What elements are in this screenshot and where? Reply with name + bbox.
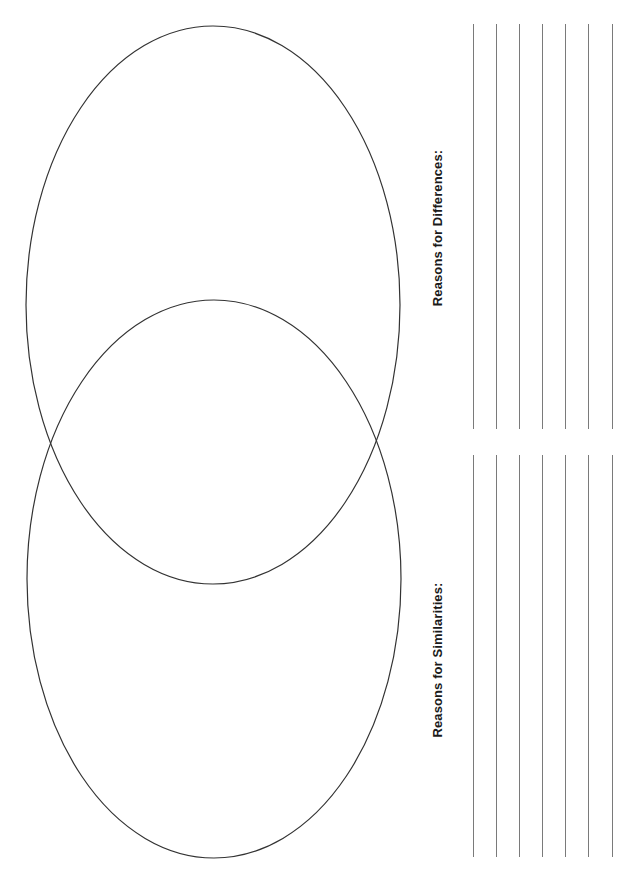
similarities-writing-line-3 <box>519 455 520 857</box>
similarities-label: Reasons for Similarities: <box>430 583 445 738</box>
venn-worksheet: Reasons for Differences: Reasons for Sim… <box>0 0 641 890</box>
venn-circle-top <box>26 26 400 584</box>
venn-diagram <box>0 0 641 890</box>
similarities-writing-line-4 <box>542 455 543 857</box>
differences-writing-line-5 <box>565 24 566 429</box>
similarities-writing-line-5 <box>565 455 566 857</box>
differences-writing-line-4 <box>542 24 543 429</box>
venn-circle-bottom <box>27 300 401 858</box>
differences-writing-line-2 <box>496 24 497 429</box>
differences-writing-line-7 <box>612 24 613 429</box>
similarities-writing-line-2 <box>496 455 497 857</box>
differences-label: Reasons for Differences: <box>430 150 445 306</box>
differences-writing-line-3 <box>519 24 520 429</box>
similarities-writing-line-6 <box>588 455 589 857</box>
similarities-writing-line-7 <box>612 455 613 857</box>
similarities-writing-line-1 <box>473 455 474 857</box>
differences-writing-line-1 <box>473 24 474 429</box>
differences-writing-line-6 <box>588 24 589 429</box>
